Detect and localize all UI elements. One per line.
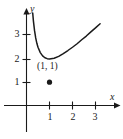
y-tick-label-2: 2 — [12, 54, 22, 64]
curve-path — [33, 13, 100, 59]
plot-canvas — [0, 0, 123, 139]
figure-container: y x 1 2 3 1 2 3 (1, 1) — [0, 0, 123, 139]
y-axis-label: y — [30, 4, 34, 14]
x-tick-label-3: 3 — [89, 112, 101, 122]
x-axis-arrow-icon — [114, 102, 121, 108]
y-tick-label-3: 3 — [12, 29, 22, 39]
minimum-point-marker — [47, 80, 52, 85]
y-axis-arrow-icon — [23, 8, 29, 15]
x-tick-label-1: 1 — [44, 112, 56, 122]
point-coordinate-label: (1, 1) — [37, 62, 58, 72]
y-tick-label-1: 1 — [12, 77, 22, 87]
x-axis-label: x — [110, 92, 114, 102]
x-tick-label-2: 2 — [67, 112, 79, 122]
